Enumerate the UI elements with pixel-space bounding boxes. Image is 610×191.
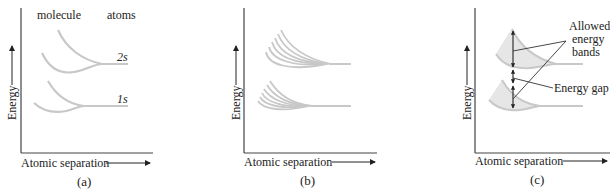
axes-b [244,8,377,153]
axes-a [21,8,153,153]
level-1s-curves [34,81,128,112]
caption-b: (b) [300,173,315,189]
level-label-1s: 1s [117,92,128,107]
y-axis-label-c: Energy [460,86,475,120]
y-axis-label-b: Energy [229,86,244,120]
level-2s-curves [42,30,128,72]
energy-gap-label: Energy gap [554,81,609,96]
caption-c: (c) [530,172,544,188]
level-label-2s: 2s [117,50,128,65]
molecule-header: molecule [37,8,81,23]
bands-label-line3: bands [569,46,610,59]
x-axis-label-c: Atomic separation [475,154,563,169]
panel-b [236,8,377,162]
panel-a [12,8,153,163]
x-axis-label-a: Atomic separation [21,156,109,171]
upper-band-fan [266,30,351,67]
y-axis-label-a: Energy [5,86,20,120]
allowed-energy-bands-label: Allowed energy bands [569,20,610,59]
atoms-header: atoms [107,8,136,23]
caption-a: (a) [77,174,91,190]
lower-band-fan [258,81,351,109]
x-axis-label-b: Atomic separation [244,155,332,170]
